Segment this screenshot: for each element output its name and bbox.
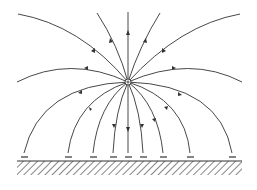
- ground-plane: [17, 161, 242, 175]
- field-lines-diagram: [0, 0, 257, 190]
- positive-charge: [125, 79, 131, 85]
- diagram-canvas: [0, 0, 257, 190]
